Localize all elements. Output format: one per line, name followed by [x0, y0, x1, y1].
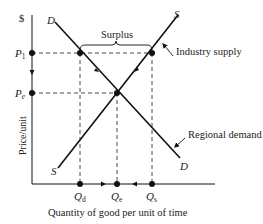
pe-label: Pe — [14, 87, 26, 101]
surplus-label: Surplus — [101, 29, 133, 40]
surplus-bracket — [80, 41, 152, 50]
industry-supply-label: Industry supply — [176, 46, 242, 57]
demand-top-label: D — [46, 14, 55, 26]
qe-label: Qe — [111, 190, 123, 204]
y-axis-unit-label: $ — [19, 13, 24, 24]
regional-demand-label: Regional demand — [188, 129, 263, 140]
supply-top-label: S — [174, 8, 180, 20]
demand-curve — [55, 22, 180, 158]
qd-to-qe-arrow-icon — [101, 182, 106, 187]
supply-bottom-label: S — [51, 165, 57, 177]
qs-label: Qs — [146, 190, 157, 204]
regional-demand-callout-line — [176, 138, 185, 146]
demand-bottom-label: D — [179, 160, 188, 172]
supply-demand-diagram: Surplus D D S S Industry supply Regional… — [0, 0, 263, 224]
guide-lines — [32, 53, 152, 184]
x-axis-label: Quantity of good per unit of time — [48, 207, 188, 218]
qs-to-qe-arrow-icon — [132, 182, 137, 187]
p1-label: P1 — [14, 47, 26, 61]
industry-supply-callout-line — [164, 45, 173, 56]
qd-label: Qd — [74, 190, 86, 204]
price-down-arrow-icon — [30, 70, 35, 75]
y-axis-label: Price/unit — [17, 116, 28, 155]
